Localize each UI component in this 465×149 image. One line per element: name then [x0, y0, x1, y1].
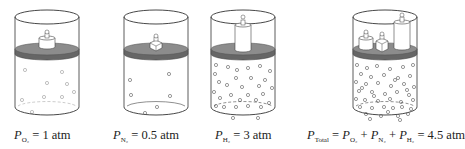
weight-icon — [39, 30, 55, 49]
label-nitrogen-pressure: PN₂ = 0.5 atm — [113, 128, 179, 144]
label-hydrogen-pressure: PH₂ = 3 atm — [215, 128, 272, 144]
gas-molecules — [20, 68, 75, 113]
weight-icon — [150, 34, 162, 51]
cylinder-nitrogen — [124, 10, 188, 115]
weight-icon — [235, 15, 251, 52]
label-total-pressure: PTotal = PO₂ + PN₂ + PH₂ = 4.5 atm — [307, 128, 465, 144]
cylinder-total — [353, 10, 417, 122]
gas-molecules — [212, 63, 273, 119]
weight-icon-oxygen — [359, 30, 373, 50]
weight-icon-nitrogen — [376, 32, 388, 52]
cylinder-hydrogen — [211, 10, 275, 120]
weight-icon-hydrogen — [394, 13, 410, 50]
label-oxygen-pressure: PO₂ = 1 atm — [14, 128, 71, 144]
cylinder-oxygen — [15, 10, 79, 115]
gas-molecules — [128, 72, 171, 114]
